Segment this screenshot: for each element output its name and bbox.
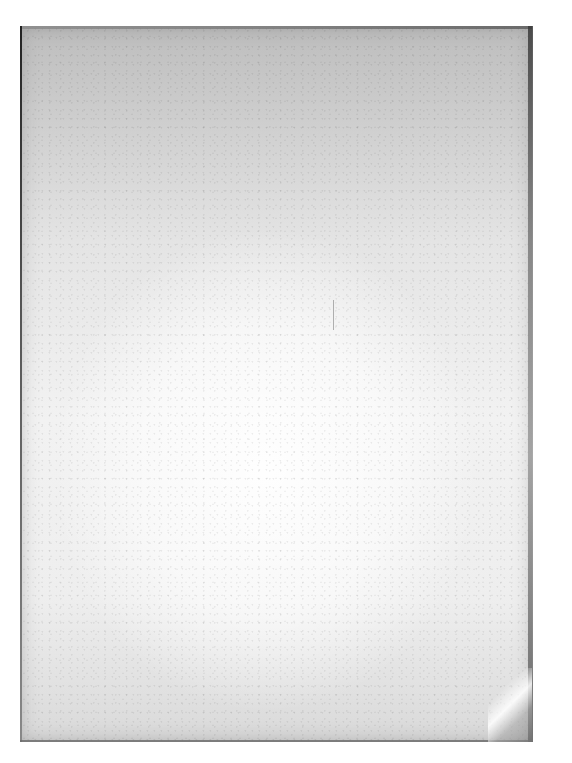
blank-paper-page: [20, 26, 532, 742]
page-top-edge: [20, 26, 532, 29]
page-left-edge: [20, 26, 22, 742]
page-right-edge: [528, 26, 533, 742]
corner-fold: [488, 668, 532, 742]
page-bottom-edge: [20, 740, 532, 742]
paper-crease-mark: [333, 300, 334, 330]
scan-canvas: [0, 0, 572, 763]
